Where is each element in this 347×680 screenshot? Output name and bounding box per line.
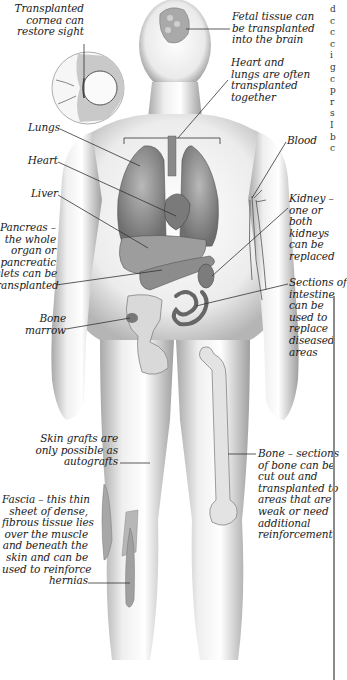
eye-cornea-inset bbox=[52, 52, 124, 124]
label-pancreas: Pancreas – the whole organ or pancreatic… bbox=[0, 222, 56, 292]
label-intestine: Sections of intestine can be used to rep… bbox=[289, 277, 347, 358]
label-blood: Blood bbox=[287, 135, 317, 147]
kidney bbox=[198, 264, 214, 288]
label-kidney: Kidney – one or both kidneys can be repl… bbox=[289, 193, 335, 263]
label-heart: Heart bbox=[4, 155, 58, 167]
label-skin-grafts: Skin grafts are only possible as autogra… bbox=[4, 433, 118, 468]
label-fetal-tissue: Fetal tissue can be transplanted into th… bbox=[232, 11, 315, 46]
head bbox=[139, 0, 211, 91]
label-lungs: Lungs bbox=[4, 122, 60, 134]
label-bone-marrow: Bone marrow bbox=[4, 313, 66, 336]
label-fascia: Fascia – this thin sheet of dense, fibro… bbox=[2, 494, 88, 587]
label-heart-lungs: Heart and lungs are often transplanted t… bbox=[231, 57, 310, 103]
sidebar-divider bbox=[333, 296, 335, 680]
sidebar-text-fragment: d c c c i g c p r s I b c bbox=[330, 4, 336, 155]
left-leg bbox=[100, 340, 174, 660]
label-bone: Bone – sections of bone can be cut out a… bbox=[258, 448, 339, 541]
label-cornea: Transplanted cornea can restore sight bbox=[6, 3, 84, 38]
label-liver: Liver bbox=[4, 188, 58, 200]
